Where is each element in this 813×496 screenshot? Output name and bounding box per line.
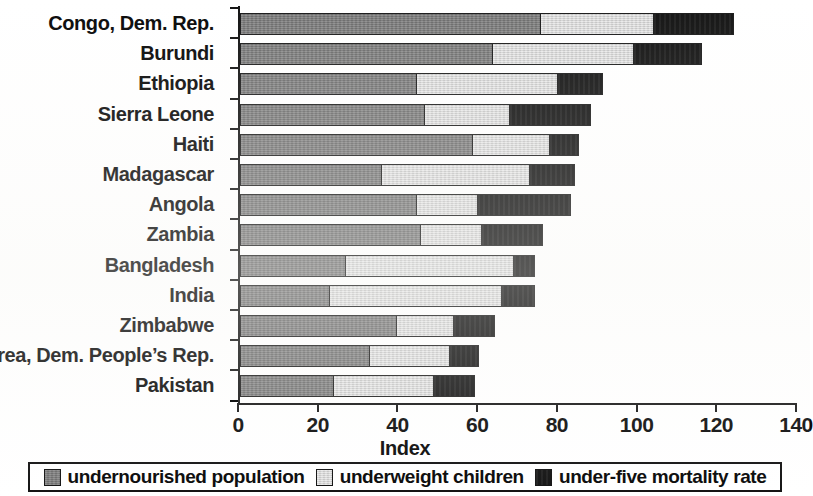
bar-segment[interactable] [241, 14, 540, 34]
x-axis-tick-label: 20 [307, 413, 329, 437]
stacked-bar[interactable] [240, 13, 734, 35]
category-label: Zimbabwe [119, 314, 214, 337]
x-axis-tick-label: 40 [386, 413, 408, 437]
chart-row: Sierra Leone [238, 99, 796, 129]
bar-segment[interactable] [416, 195, 477, 215]
y-axis-tick [230, 98, 238, 100]
legend-swatch-undernourished-population [44, 469, 61, 486]
bar-segment[interactable] [241, 74, 416, 94]
x-axis-tick-label: 80 [546, 413, 568, 437]
chart-row: Angola [238, 189, 796, 219]
chart-row: Zambia [238, 219, 796, 249]
x-axis-tick-label: 120 [700, 413, 734, 437]
bar-segment[interactable] [241, 346, 369, 366]
bar-segment[interactable] [433, 376, 474, 396]
category-label: Congo, Dem. Rep. [48, 12, 214, 35]
bar-segment[interactable] [492, 44, 633, 64]
x-axis-tick [715, 403, 717, 412]
y-axis-tick [230, 339, 238, 341]
stacked-bar[interactable] [240, 43, 702, 65]
stacked-bar[interactable] [240, 104, 591, 126]
category-label: Haiti [173, 132, 214, 155]
category-label: Korea, Dem. People’s Rep. [0, 344, 214, 367]
bar-segment[interactable] [241, 135, 472, 155]
stacked-bar[interactable] [240, 164, 575, 186]
y-axis-tick [230, 158, 238, 160]
x-axis-tick [556, 403, 558, 412]
x-axis-tick-label: 140 [779, 413, 813, 437]
chart-row: Korea, Dem. People’s Rep. [238, 340, 796, 370]
y-axis-tick [230, 309, 238, 311]
bar-segment[interactable] [509, 105, 590, 125]
bar-segment[interactable] [449, 346, 478, 366]
category-label: Bangladesh [105, 253, 214, 276]
stacked-bar[interactable] [240, 134, 579, 156]
stacked-bar[interactable] [240, 375, 475, 397]
x-axis-tick [476, 403, 478, 412]
x-axis-line [238, 403, 796, 405]
legend-label: under-five mortality rate [559, 466, 767, 488]
bar-segment[interactable] [241, 286, 329, 306]
chart-row: Burundi [238, 38, 796, 68]
legend-label: undernourished population [68, 466, 305, 488]
chart-row: Bangladesh [238, 250, 796, 280]
bar-segment[interactable] [241, 195, 416, 215]
bar-segment[interactable] [549, 135, 578, 155]
legend-item: undernourished population [44, 466, 305, 488]
chart-row: Haiti [238, 129, 796, 159]
bar-segment[interactable] [557, 74, 602, 94]
bar-segment[interactable] [501, 286, 534, 306]
bar-segment[interactable] [653, 14, 734, 34]
stacked-bar[interactable] [240, 224, 543, 246]
bar-segment[interactable] [241, 165, 381, 185]
category-label: Ethiopia [138, 72, 214, 95]
bar-segment[interactable] [453, 316, 494, 336]
bar-segment[interactable] [633, 44, 702, 64]
bar-segment[interactable] [381, 165, 529, 185]
x-axis-tick [317, 403, 319, 412]
bar-segment[interactable] [540, 14, 653, 34]
category-label: Angola [149, 193, 214, 216]
bar-segment[interactable] [513, 256, 534, 276]
category-label: Madagascar [102, 163, 214, 186]
bar-segment[interactable] [241, 316, 396, 336]
chart-legend: undernourished population underweight ch… [28, 462, 782, 492]
chart-row: Congo, Dem. Rep. [238, 8, 796, 38]
category-label: Burundi [140, 42, 214, 65]
stacked-bar[interactable] [240, 285, 535, 307]
bar-segment[interactable] [345, 256, 513, 276]
bar-segment[interactable] [369, 346, 450, 366]
bar-segment[interactable] [241, 376, 333, 396]
category-label: Pakistan [135, 374, 214, 397]
stacked-bar[interactable] [240, 345, 479, 367]
chart-row: Madagascar [238, 159, 796, 189]
x-axis-title: Index [0, 437, 810, 460]
x-axis-tick [396, 403, 398, 412]
bar-segment[interactable] [241, 105, 424, 125]
stacked-bar[interactable] [240, 255, 535, 277]
stacked-bar[interactable] [240, 194, 571, 216]
chart-row: India [238, 280, 796, 310]
bar-segment[interactable] [241, 256, 345, 276]
chart-row: Ethiopia [238, 68, 796, 98]
bar-segment[interactable] [241, 225, 420, 245]
bar-segment[interactable] [472, 135, 549, 155]
bar-segment[interactable] [424, 105, 509, 125]
bar-segment[interactable] [329, 286, 501, 306]
stacked-bar[interactable] [240, 73, 603, 95]
bar-segment[interactable] [529, 165, 574, 185]
bar-segment[interactable] [416, 74, 557, 94]
category-label: India [169, 283, 214, 306]
bar-segment[interactable] [477, 195, 570, 215]
y-axis-tick [230, 128, 238, 130]
y-axis-tick [230, 400, 238, 402]
bar-segment[interactable] [420, 225, 481, 245]
bar-segment[interactable] [241, 44, 492, 64]
x-axis-tick [237, 403, 239, 412]
legend-label: underweight children [340, 466, 524, 488]
bar-segment[interactable] [481, 225, 542, 245]
stacked-bar[interactable] [240, 315, 495, 337]
y-axis-tick [230, 7, 238, 9]
bar-segment[interactable] [333, 376, 434, 396]
bar-segment[interactable] [396, 316, 453, 336]
